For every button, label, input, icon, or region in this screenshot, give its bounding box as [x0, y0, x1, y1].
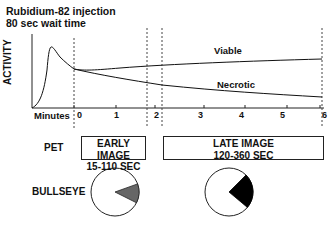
bullseye-late — [205, 168, 253, 216]
tick-5: 5 — [280, 110, 285, 120]
tick-3: 3 — [198, 110, 203, 120]
x-axis-label: Minutes — [34, 110, 70, 121]
bolus-curve — [32, 47, 74, 108]
viable-label: Viable — [214, 45, 242, 56]
tick-4: 4 — [239, 110, 244, 120]
late-image-title: LATE IMAGE — [164, 138, 323, 150]
late-image-range: 120-360 SEC — [164, 150, 323, 162]
tick-0: 0 — [77, 110, 82, 120]
bullseye-early — [91, 168, 139, 216]
early-image-title: EARLY IMAGE — [82, 138, 145, 161]
tick-6: 6 — [322, 110, 327, 120]
necrotic-label: Necrotic — [217, 79, 255, 90]
tick-1: 1 — [114, 110, 119, 120]
pet-label: PET — [44, 142, 63, 153]
early-image-range: 15-110 SEC — [82, 161, 145, 173]
late-image-box: LATE IMAGE 120-360 SEC — [163, 136, 324, 160]
early-image-box: EARLY IMAGE 15-110 SEC — [81, 136, 146, 160]
bullseye-label: BULLSEYE — [32, 186, 85, 197]
tick-2: 2 — [154, 110, 159, 120]
viable-curve — [74, 59, 322, 70]
necrotic-curve — [74, 69, 322, 97]
